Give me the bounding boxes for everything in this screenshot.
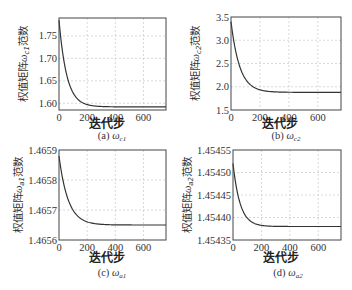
y-tick-label: 1.4657 [28,205,57,216]
y-tick-label: 1.45445 [197,190,231,201]
x-tick-label: 600 [310,242,326,253]
x-tick-label: 0 [56,242,61,253]
y-axis-label: 权值矩阵ωa1范数 [12,156,26,233]
x-tick-label: 600 [310,112,326,123]
y-tick-label: 2.0 [216,81,229,92]
panel-caption-a: (a) ωc1 [98,130,126,143]
y-tick-label: 1.70 [39,53,57,64]
x-tick-label: 0 [228,112,233,123]
y-tick-label: 1.5 [216,105,229,116]
x-axis-label: 迭代步 [262,116,298,131]
y-axis-label: 权值矩阵ωa2范数 [181,156,195,233]
y-tick-label: 1.45455 [197,145,231,156]
y-tick-label: 3.5 [216,12,229,23]
y-tick-label: 1.4659 [28,145,57,156]
panel-caption-c: (c) ωa1 [98,267,127,280]
y-tick-label: 3.0 [216,35,229,46]
y-tick-label: 1.75 [39,30,57,41]
panel-caption-b: (b) ωc2 [272,130,301,143]
x-tick-label: 0 [230,242,235,253]
y-tick-label: 1.4658 [28,175,57,186]
convergence-curve-b [231,22,341,93]
x-axis-label: 迭代步 [89,116,125,131]
y-tick-label: 1.65 [39,75,57,86]
y-axis-label: 权值矩阵ωc2范数 [189,25,203,102]
figure-four-panel-convergence: 02004006001.601.651.701.75迭代步权值矩阵ωc1范数(a… [0,0,352,290]
convergence-curve-a [59,20,166,107]
x-tick-label: 600 [136,112,152,123]
y-tick-label: 2.5 [216,58,229,69]
y-tick-label: 1.45435 [197,235,231,246]
x-axis-label: 迭代步 [263,250,299,265]
y-tick-label: 1.4656 [28,235,57,246]
x-tick-label: 600 [136,242,152,253]
y-tick-label: 1.45450 [197,167,231,178]
y-tick-label: 1.60 [39,98,57,109]
y-tick-label: 1.45440 [197,212,231,223]
y-axis-label: 权值矩阵ωc1范数 [17,25,31,102]
plot-frame-c [59,150,166,240]
convergence-curve-c [59,156,166,225]
x-axis-label: 迭代步 [89,250,125,265]
x-tick-label: 0 [56,112,61,123]
panel-caption-d: (d) ωa2 [273,267,303,280]
